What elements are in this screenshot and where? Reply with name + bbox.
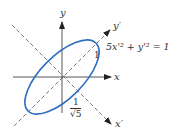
ellipse-diagram [0,0,174,132]
fraction-denominator: √5 [70,109,81,119]
x-axis-label: x [114,72,120,82]
radicand: 5 [76,108,82,119]
semi-minor-fraction: 1 √5 [70,98,81,119]
radical-sign: √ [70,109,76,119]
y-axis-label: y [60,8,66,18]
equation-label: 5x'² + y'² = 1 [106,42,170,52]
semi-major-label: 1 [94,51,100,60]
y-prime-axis-label: y′ [113,21,121,31]
x-prime-axis-label: x′ [115,119,123,129]
